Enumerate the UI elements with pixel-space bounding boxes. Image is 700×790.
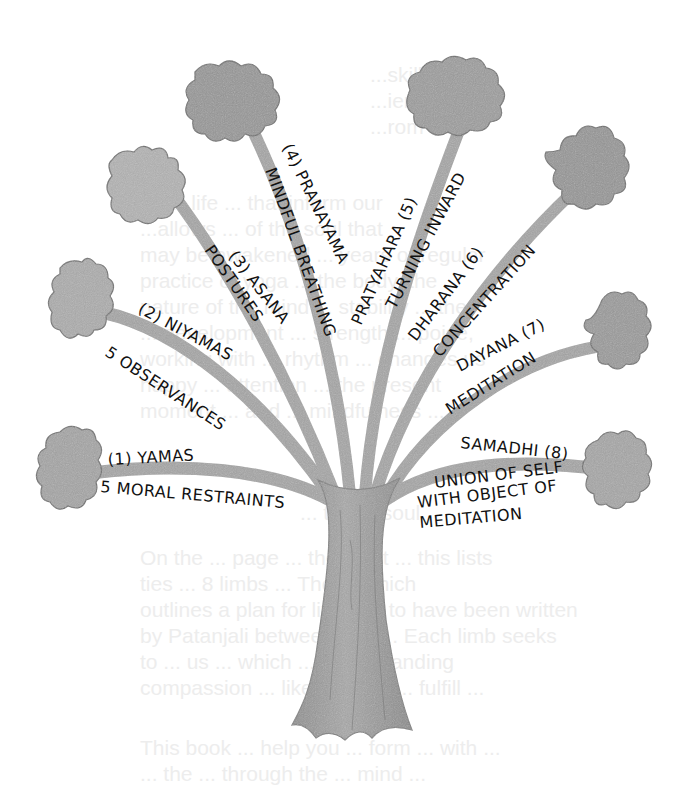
tree-drawing: (1) YAMAS 5 MORAL RESTRAINTS (2) NIYAMAS… — [0, 0, 700, 790]
flower-1 — [36, 426, 101, 509]
branch-5 — [365, 115, 465, 495]
limb-2-subtitle: 5 OBSERVANCES — [102, 342, 230, 434]
flower-5 — [407, 56, 505, 135]
flower-4 — [186, 61, 280, 141]
flower-8 — [582, 431, 651, 509]
yoga-tree-illustration: ...skills that ...ience, and ...rom all … — [0, 0, 700, 790]
flower-6 — [545, 126, 629, 209]
flower-7 — [584, 292, 651, 369]
flower-2 — [48, 258, 113, 338]
flower-3 — [107, 146, 185, 223]
limb-1-subtitle: 5 MORAL RESTRAINTS — [100, 477, 286, 512]
